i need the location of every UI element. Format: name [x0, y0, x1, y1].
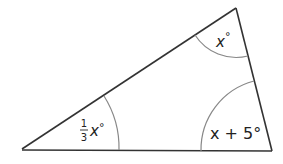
degree-symbol: ° [99, 121, 105, 134]
variable-x: x [89, 122, 99, 140]
angle-arc-left [104, 96, 119, 150]
angle-label-right: x + 5° [210, 124, 261, 143]
variable-x: x [215, 33, 225, 51]
side-base [22, 150, 272, 151]
fraction-numerator: 1 [81, 118, 87, 129]
fraction-denominator: 3 [81, 132, 87, 143]
angle-label-top: x ° [215, 30, 231, 51]
degree-symbol: ° [225, 30, 231, 43]
triangle-diagram: 1 3 x ° x ° x + 5° [0, 0, 283, 164]
angle-label-left: 1 3 x ° [80, 118, 105, 143]
